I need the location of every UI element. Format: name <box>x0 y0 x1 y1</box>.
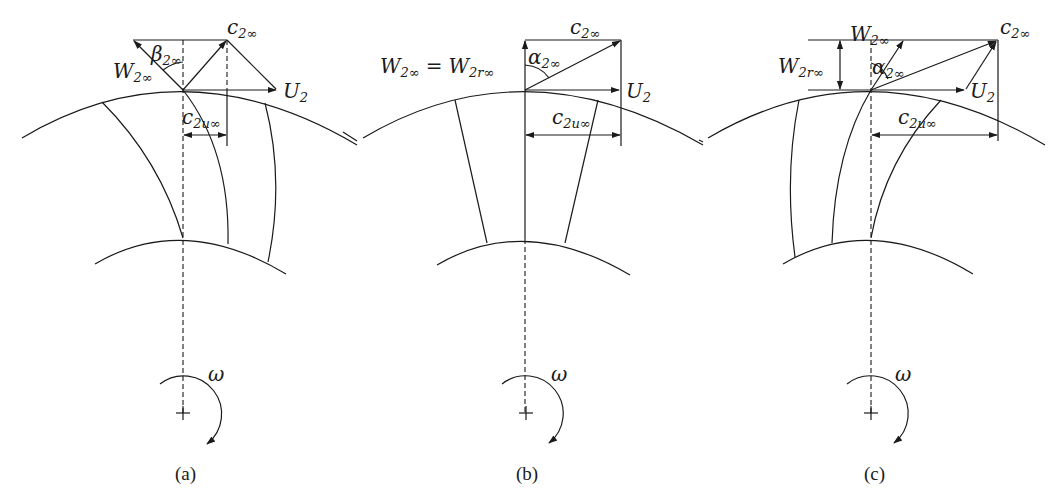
label-c2u: c2u∞ <box>898 105 937 131</box>
blade <box>790 100 799 257</box>
label-alpha: α2∞ <box>528 45 561 71</box>
label-omega: ω <box>551 362 567 386</box>
blade <box>265 103 276 262</box>
center-cross-icon <box>176 406 190 420</box>
inner-hub-arc <box>783 240 973 274</box>
rotation-omega-arrow <box>160 376 222 444</box>
outer-rim-tick <box>699 140 703 142</box>
panel-c: c2∞ W2∞ W2r∞ α2∞ U2 c2u∞ ω (c) <box>699 15 1045 485</box>
label-beta: β2∞ <box>150 42 182 68</box>
label-w2-equals-w2r: W2∞=W2r∞ <box>380 54 494 80</box>
triangle-side <box>227 40 276 89</box>
label-c2: c2∞ <box>570 15 600 41</box>
label-u2: U2 <box>970 79 995 105</box>
label-u2: U2 <box>283 79 308 105</box>
label-c2: c2∞ <box>1000 15 1030 41</box>
label-omega: ω <box>895 362 911 386</box>
label-c2u: c2u∞ <box>552 105 591 131</box>
label-w2: W2∞ <box>113 59 153 85</box>
label-alpha: α2∞ <box>872 55 905 81</box>
caption-a: (a) <box>175 463 196 485</box>
caption-b: (b) <box>516 463 538 485</box>
panel-b: c2∞ α2∞ W2∞=W2r∞ U2 c2u∞ ω (b) <box>343 15 703 485</box>
blade <box>102 102 183 238</box>
label-w2: W2∞ <box>850 22 890 48</box>
blade <box>455 100 487 243</box>
inner-hub-arc <box>95 240 286 274</box>
center-cross-icon <box>864 406 878 420</box>
center-cross-icon <box>519 406 533 420</box>
c2-vector-arrow <box>183 41 226 90</box>
caption-c: (c) <box>864 463 885 485</box>
outer-rim-tick <box>343 132 357 141</box>
label-omega: ω <box>208 362 224 386</box>
outer-rim-arc <box>363 92 703 145</box>
inner-hub-arc <box>437 241 630 275</box>
label-c2: c2∞ <box>227 15 257 41</box>
label-u2: U2 <box>626 79 651 105</box>
blade <box>832 90 871 243</box>
label-w2r: W2r∞ <box>778 54 824 80</box>
panel-a: c2∞ β2∞ W2∞ U2 c2u∞ ω (a) <box>22 15 357 485</box>
impeller-velocity-triangles-figure: c2∞ β2∞ W2∞ U2 c2u∞ ω (a) <box>0 0 1059 497</box>
label-c2u: c2u∞ <box>182 105 221 131</box>
